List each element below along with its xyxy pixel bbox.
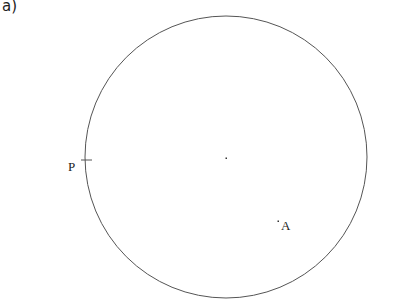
point-a-dot — [278, 221, 280, 223]
circle-diagram: P A — [0, 0, 405, 299]
point-p-label: P — [68, 159, 75, 174]
point-a-label: A — [281, 218, 291, 233]
center-dot — [226, 158, 228, 160]
circle — [85, 16, 367, 298]
